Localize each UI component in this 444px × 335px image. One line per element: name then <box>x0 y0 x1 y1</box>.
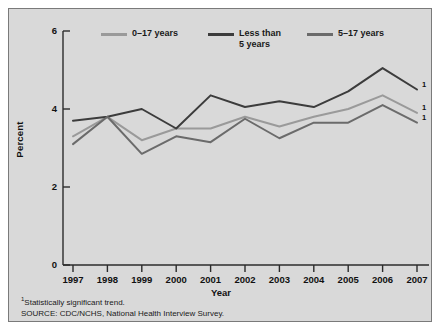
footnote-significance: 1Statistically significant trend. <box>21 294 224 308</box>
legend-swatch-icon-0 <box>101 33 127 36</box>
legend-label-2: 5–17 years <box>338 28 384 39</box>
axes <box>63 31 429 272</box>
legend-swatch-icon-1 <box>208 33 234 36</box>
y-tick-label-4: 4 <box>37 103 57 114</box>
endnote-marker-1: 1 <box>422 80 426 89</box>
chart-figure: 0–17 yearsLess than 5 years5–17 years Pe… <box>8 8 432 322</box>
footnote-note-text: Statistically significant trend. <box>24 298 125 307</box>
y-tick-label-6: 6 <box>37 25 57 36</box>
endnote-marker-0: 1 <box>422 103 426 112</box>
x-tick-label-2007: 2007 <box>397 274 437 285</box>
legend-swatch-icon-2 <box>307 33 333 36</box>
endnote-marker-2: 1 <box>422 113 426 122</box>
chart-legend: 0–17 yearsLess than 5 years5–17 years <box>101 28 431 62</box>
footnote-source: SOURCE: CDC/NCHS, National Health Interv… <box>21 308 224 319</box>
legend-label-0: 0–17 years <box>132 28 178 39</box>
legend-item-1[interactable]: Less than 5 years <box>208 28 281 49</box>
legend-label-1: Less than 5 years <box>239 28 281 49</box>
footnote-block: 1Statistically significant trend. SOURCE… <box>21 294 224 319</box>
legend-item-2[interactable]: 5–17 years <box>307 28 384 39</box>
y-axis-title: Percent <box>14 121 25 157</box>
legend-item-0[interactable]: 0–17 years <box>101 28 178 39</box>
y-tick-label-0: 0 <box>37 259 57 270</box>
y-tick-label-2: 2 <box>37 181 57 192</box>
data-series <box>73 68 417 154</box>
